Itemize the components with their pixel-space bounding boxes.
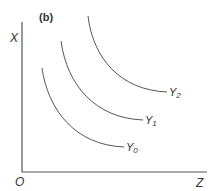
y-axis-label: X: [10, 32, 18, 44]
isoquant-diagram: (b) X O Z Y0 Y1 Y2: [0, 0, 214, 191]
curve-label-y1: Y1: [145, 115, 157, 128]
curve-y2: [88, 16, 167, 92]
x-axis-label: Z: [196, 177, 203, 189]
origin-label: O: [15, 176, 24, 188]
diagram-canvas: [0, 0, 214, 191]
curve-y1: [61, 41, 143, 120]
curve-label-y0: Y0: [126, 142, 138, 155]
panel-label: (b): [39, 12, 53, 23]
curve-label-y2: Y2: [169, 87, 181, 100]
curve-y0: [42, 68, 124, 147]
